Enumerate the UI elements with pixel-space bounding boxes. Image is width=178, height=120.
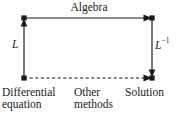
edge-label-other-methods: Other methods xyxy=(74,86,126,110)
node-label-solution: Solution xyxy=(125,86,177,98)
differential-equation-line-1: Differential xyxy=(2,86,74,98)
edge-label-inverse-transform: L−1 xyxy=(155,38,169,51)
other-methods-line-2: methods xyxy=(74,98,126,110)
node-bottom-left xyxy=(21,75,26,80)
differential-equation-line-2: equation xyxy=(2,98,74,110)
node-label-differential-equation: Differential equation xyxy=(2,86,74,110)
node-bottom-right xyxy=(149,75,154,80)
other-methods-line-1: Other xyxy=(74,86,126,98)
inverse-transform-exponent: −1 xyxy=(161,36,169,45)
solution-line-1: Solution xyxy=(125,86,177,98)
edge-label-transform: L xyxy=(12,38,18,50)
node-top-left xyxy=(21,15,26,20)
commutative-diagram: Algebra L L−1 Differential equation Othe… xyxy=(0,0,178,120)
edge-label-algebra: Algebra xyxy=(0,1,178,13)
node-top-right xyxy=(149,15,154,20)
